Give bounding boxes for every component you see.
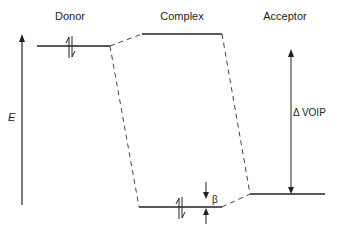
axis-arrow-icon <box>19 34 25 42</box>
delta-voip-arrow <box>288 49 294 194</box>
beta-label: β <box>212 194 218 205</box>
beta-arrow-up-icon <box>203 208 209 215</box>
beta-arrows <box>203 182 209 224</box>
arrow-up-icon <box>288 49 294 57</box>
delta-voip-label: Δ VOIP <box>293 107 326 118</box>
donor-electron-pair-icon <box>66 36 75 58</box>
arrow-down-icon <box>288 187 294 194</box>
complex-label: Complex <box>160 10 204 22</box>
energy-axis <box>19 34 25 205</box>
correlation-lines <box>110 34 250 207</box>
beta-arrow-down-icon <box>203 192 209 199</box>
orbital-interaction-diagram: Donor Complex Acceptor E Δ VOIP <box>0 0 340 230</box>
acceptor-label: Acceptor <box>263 10 307 22</box>
energy-axis-label: E <box>8 111 16 123</box>
donor-label: Donor <box>55 10 85 22</box>
complex-electron-pair-icon <box>176 197 185 219</box>
